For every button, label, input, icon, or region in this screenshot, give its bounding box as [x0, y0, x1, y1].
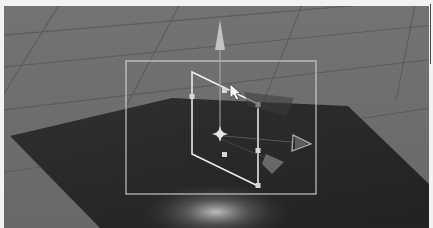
handle-bottom-mid[interactable]: [222, 152, 227, 157]
handle-top-left[interactable]: [190, 94, 195, 99]
scene-viewport[interactable]: [4, 6, 429, 228]
handle-top-mid[interactable]: [222, 88, 227, 93]
handle-bottom-left[interactable]: [256, 183, 261, 188]
panel-divider: [430, 4, 431, 64]
editor-window: [0, 0, 433, 228]
handle-bottom-right[interactable]: [256, 148, 261, 153]
viewport-canvas[interactable]: [4, 6, 429, 228]
